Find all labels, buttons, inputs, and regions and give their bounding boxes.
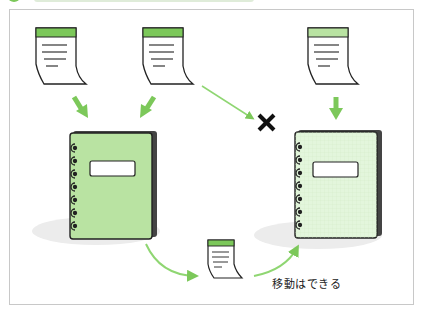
document-icon-2 — [143, 28, 193, 84]
notebook-b — [254, 130, 382, 249]
arrow-down-icon — [329, 97, 343, 120]
blocked-arrow — [202, 86, 252, 118]
move-arrow-in — [254, 248, 297, 276]
arrow-down-icon — [140, 97, 154, 118]
diagram-canvas — [0, 0, 423, 314]
move-caption: 移動はできる — [272, 275, 341, 291]
document-icon-3 — [308, 28, 358, 84]
arrow-down-icon — [74, 97, 88, 118]
blocked-x-icon — [259, 115, 274, 130]
document-icon-moved — [208, 240, 242, 278]
move-arrow-out — [146, 244, 195, 276]
document-icon-1 — [36, 28, 86, 84]
notebook-a — [32, 131, 160, 245]
